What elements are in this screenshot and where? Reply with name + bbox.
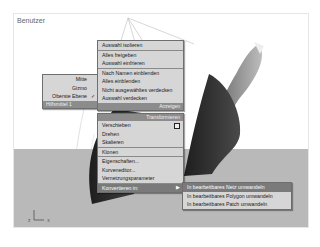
axis-z-label: z [28, 217, 31, 223]
menu-item-gizmo[interactable]: Gizmo [43, 84, 97, 93]
axis-indicator: z x [28, 210, 50, 223]
menu-item-klonen[interactable]: Klonen [98, 147, 183, 157]
submenu-arrow-icon: ▶ [176, 184, 180, 193]
submenu-item-patch[interactable]: In bearbeitbares Patch umwandeln [183, 200, 291, 209]
menu-header-anzeigen: Anzeigen [98, 103, 183, 110]
check-icon: ✓ [91, 92, 95, 101]
menu-item-vernetzungsparameter[interactable]: Vernetzungsparameter [98, 174, 183, 183]
axis-icon [32, 210, 46, 222]
menu-item-skalieren[interactable]: Skalieren [98, 138, 183, 147]
quad-menu-transform: Transformieren Verschieben Drehen Skalie… [97, 113, 184, 193]
settings-box-icon[interactable] [174, 123, 180, 129]
menu-item-mitte[interactable]: Mitte [43, 75, 97, 84]
menu-item-auswahl-verdecken[interactable]: Auswahl verdecken [98, 94, 183, 103]
menu-header-transformieren: Transformieren [98, 114, 183, 121]
menu-item-eigenschaften[interactable]: Eigenschaften... [98, 156, 183, 166]
menu-item-nicht-ausgewaehltes-verdecken[interactable]: Nicht ausgewähltes verdecken [98, 86, 183, 95]
menu-item-konvertieren-in[interactable]: Konvertieren in:▶ [98, 183, 183, 193]
menu-item-alles-freigeben[interactable]: Alles freigeben [98, 50, 183, 60]
quad-menu-main: Auswahl isolieren Alles freigeben Auswah… [97, 40, 184, 111]
menu-item-auswahl-isolieren[interactable]: Auswahl isolieren [98, 41, 183, 50]
menu-item-drehen[interactable]: Drehen [98, 130, 183, 139]
submenu-item-netz[interactable]: In bearbeitbares Netz umwandeln [183, 183, 291, 192]
menu-item-alles-einblenden[interactable]: Alles einblenden [98, 77, 183, 86]
menu-item-oberste-ebene[interactable]: Oberste Ebene✓ [43, 92, 97, 101]
axis-x-label: x [47, 217, 50, 223]
convert-submenu: In bearbeitbares Netz umwandeln In bearb… [182, 182, 292, 210]
menu-item-nach-namen-einblenden[interactable]: Nach Namen einblenden [98, 68, 183, 78]
menu-item-auswahl-einfrieren[interactable]: Auswahl einfrieren [98, 59, 183, 68]
menu-item-verschieben[interactable]: Verschieben [98, 121, 183, 130]
menu-header-hilfsmittel: Hilfsmittel 1 [43, 101, 97, 108]
submenu-item-polygon[interactable]: In bearbeitbares Polygon umwandeln [183, 192, 291, 201]
menu-item-kurveneditor[interactable]: Kurveneditor... [98, 166, 183, 175]
quad-menu-left: Mitte Gizmo Oberste Ebene✓ Hilfsmittel 1 [42, 74, 98, 109]
